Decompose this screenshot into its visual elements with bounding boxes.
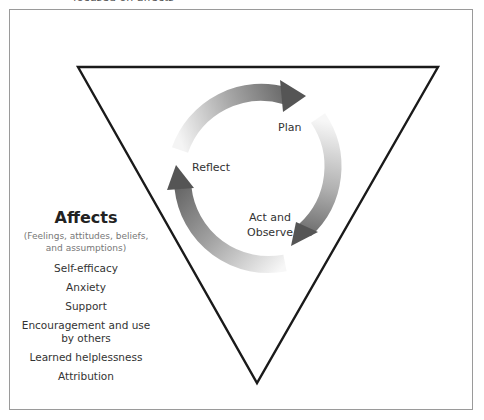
arrow-to-plan	[180, 80, 306, 150]
affects-subtitle-line1: (Feelings, attitudes, beliefs,	[20, 230, 152, 242]
affects-subtitle-line2: and assumptions)	[20, 242, 152, 254]
affects-item: Anxiety	[20, 281, 152, 294]
affects-subtitle: (Feelings, attitudes, beliefs, and assum…	[20, 230, 152, 254]
step-label-act-line2: Observe	[247, 225, 293, 240]
affects-list: Self-efficacy Anxiety Support Encouragem…	[20, 262, 152, 383]
affects-item: Self-efficacy	[20, 262, 152, 275]
affects-item-line1: Encouragement and use	[20, 319, 152, 332]
affects-item-line2: by others	[20, 332, 152, 345]
affects-title: Affects	[20, 208, 152, 228]
affects-item: Encouragement and use by others	[20, 319, 152, 345]
step-label-reflect: Reflect	[192, 160, 230, 175]
step-label-plan: Plan	[278, 120, 301, 135]
affects-panel: Affects (Feelings, attitudes, beliefs, a…	[20, 208, 152, 389]
step-label-act-line1: Act and	[247, 210, 293, 225]
affects-item: Support	[20, 300, 152, 313]
arrow-to-act-observe	[291, 118, 333, 246]
affects-item: Attribution	[20, 370, 152, 383]
step-label-act-observe: Act and Observe	[247, 210, 293, 240]
affects-item: Learned helplessness	[20, 351, 152, 364]
